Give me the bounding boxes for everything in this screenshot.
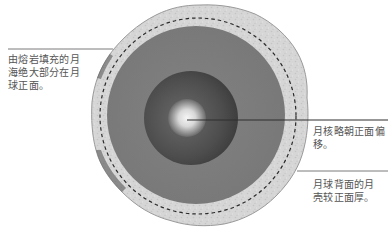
- label-line: 由熔岩填充的月: [8, 53, 98, 66]
- label-line: 壳较正面厚。: [313, 191, 388, 204]
- label-core-offset: 月核略朝正面偏 移。: [313, 125, 388, 151]
- label-line: 移。: [313, 138, 388, 151]
- label-line: 球正面。: [8, 79, 98, 92]
- label-line: 月核略朝正面偏: [313, 125, 388, 138]
- core-layer: [168, 99, 206, 137]
- label-crust-thickness: 月球背面的月 壳较正面厚。: [313, 178, 388, 204]
- label-line: 海绝大部分在月: [8, 66, 98, 79]
- label-mare-near-side: 由熔岩填充的月 海绝大部分在月 球正面。: [8, 53, 98, 92]
- label-line: 月球背面的月: [313, 178, 388, 191]
